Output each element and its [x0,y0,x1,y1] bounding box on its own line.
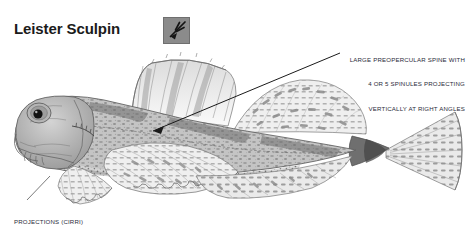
annotation-line: LARGE PREOPERCULAR SPINE WITH [350,56,465,64]
spear-glyph [164,18,189,43]
annotation-line: VERTICALLY AT RIGHT ANGLES [350,105,465,113]
annotation-line: 4 OR 5 SPINULES PROJECTING [350,80,465,88]
leister-spear-icon[interactable] [163,17,190,44]
eye [27,103,51,123]
second-dorsal-fin [232,80,366,134]
caudal-peduncle [349,136,389,166]
annotation-mouth-cirri: PROJECTIONS (CIRRI) AT CORNER OF MOUTH [14,202,87,237]
page-title: Leister Sculpin [14,20,120,37]
annotation-line: PROJECTIONS (CIRRI) [14,218,87,226]
illustration-plate: Leister Sculpin LARGE PREOPERCULAR SPINE… [0,0,468,237]
annotation-preopercular-spine: LARGE PREOPERCULAR SPINE WITH 4 OR 5 SPI… [350,40,465,129]
head [14,96,94,169]
